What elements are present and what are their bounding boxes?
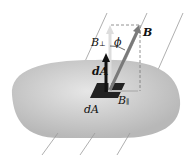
diagram-canvas: [0, 0, 190, 168]
label-phi: ϕ: [114, 37, 122, 48]
label-b-parallel: B∥: [118, 95, 129, 106]
label-da-area: dA: [84, 104, 99, 115]
label-da-vector: dA: [92, 66, 108, 77]
label-b-perp: B⊥: [91, 37, 106, 48]
flux-diagram: B B⊥ ϕ dA dA B∥: [0, 0, 190, 168]
label-b: B: [143, 27, 152, 38]
